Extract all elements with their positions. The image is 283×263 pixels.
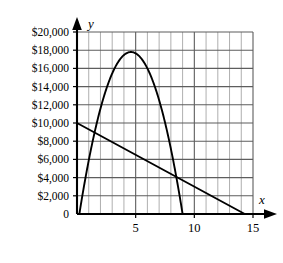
y-axis-tick-label: $8,000 — [37, 135, 69, 148]
y-axis-arrowhead — [72, 17, 82, 30]
x-axis-tick-label: 5 — [133, 221, 139, 235]
y-axis-tick-label: $14,000 — [32, 81, 70, 94]
y-axis-name-label: y — [86, 16, 94, 31]
y-axis-tick-label: $2,000 — [37, 190, 69, 203]
y-axis-tick-label: $16,000 — [32, 62, 70, 75]
y-axis-tick-label: $12,000 — [32, 99, 70, 112]
x-axis-arrowhead — [264, 209, 277, 219]
x-axis-name-label: x — [258, 192, 265, 207]
y-axis-labels: 0$2,000$4,000$6,000$8,000$10,000$12,000$… — [32, 26, 70, 220]
x-axis-tick-label: 10 — [188, 221, 201, 235]
y-axis-tick-label: $6,000 — [37, 153, 69, 166]
y-axis-tick-label: $18,000 — [32, 44, 70, 57]
linear-curve — [77, 123, 245, 214]
y-axis-tick-label: 0 — [63, 208, 69, 220]
coordinate-plane: 0$2,000$4,000$6,000$8,000$10,000$12,000$… — [0, 0, 283, 263]
x-axis-tick-label: 15 — [247, 221, 260, 235]
y-axis-tick-label: $20,000 — [32, 26, 70, 39]
y-axis-tick-label: $4,000 — [37, 172, 69, 185]
graph-figure: 0$2,000$4,000$6,000$8,000$10,000$12,000$… — [0, 0, 283, 263]
y-axis-tick-label: $10,000 — [32, 117, 70, 130]
x-axis-labels: 51015 — [133, 221, 260, 235]
